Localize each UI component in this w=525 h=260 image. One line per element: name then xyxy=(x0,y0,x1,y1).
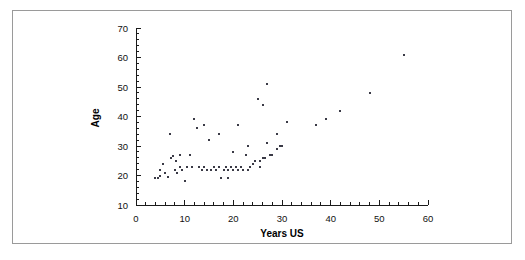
figure-root: 0102030405060 10203040506070 Years US Ag… xyxy=(0,0,525,260)
data-point xyxy=(286,121,288,123)
y-tick-label: 10 xyxy=(117,200,128,211)
data-point xyxy=(230,166,232,168)
x-tick-label: 0 xyxy=(133,213,138,224)
data-point-series xyxy=(154,54,404,183)
y-tick-label: 60 xyxy=(117,52,128,63)
data-point xyxy=(169,133,171,135)
data-point xyxy=(196,127,198,129)
data-point xyxy=(262,157,264,159)
x-axis-tick-labels: 0102030405060 xyxy=(133,213,433,224)
data-point xyxy=(157,177,159,179)
data-point xyxy=(164,172,166,174)
y-axis-tick-labels: 10203040506070 xyxy=(117,23,128,211)
y-tick-label: 40 xyxy=(117,111,128,122)
data-point xyxy=(245,154,247,156)
x-tick-label: 50 xyxy=(374,213,385,224)
data-point xyxy=(235,166,237,168)
data-point xyxy=(257,98,259,100)
data-point xyxy=(369,92,371,94)
x-tick-label: 60 xyxy=(423,213,434,224)
data-point xyxy=(154,177,156,179)
data-point xyxy=(281,145,283,147)
data-point xyxy=(266,83,268,85)
data-point xyxy=(189,154,191,156)
data-point xyxy=(176,172,178,174)
data-point xyxy=(264,157,266,159)
data-point xyxy=(167,176,169,178)
data-point xyxy=(179,154,181,156)
x-tick-label: 30 xyxy=(277,213,288,224)
data-point xyxy=(276,148,278,150)
data-point xyxy=(198,166,200,168)
data-point xyxy=(201,169,203,171)
data-point xyxy=(162,163,164,165)
data-point xyxy=(218,166,220,168)
data-point xyxy=(184,180,186,182)
scatter-plot: 0102030405060 10203040506070 Years US Ag… xyxy=(0,0,525,260)
data-point xyxy=(203,166,205,168)
data-point xyxy=(237,169,239,171)
data-point xyxy=(213,166,215,168)
data-point xyxy=(240,166,242,168)
y-axis-ticks xyxy=(136,28,141,205)
data-point xyxy=(259,166,261,168)
x-tick-label: 40 xyxy=(325,213,336,224)
x-tick-label: 20 xyxy=(228,213,239,224)
data-point xyxy=(220,177,222,179)
data-point xyxy=(159,175,161,177)
data-point xyxy=(266,142,268,144)
data-point xyxy=(159,169,161,171)
data-point xyxy=(325,118,327,120)
data-point xyxy=(232,151,234,153)
x-tick-label: 10 xyxy=(179,213,190,224)
data-point xyxy=(403,54,405,56)
y-axis-title: Age xyxy=(90,108,101,127)
data-point xyxy=(271,154,273,156)
data-point xyxy=(175,160,177,162)
data-point xyxy=(339,110,341,112)
axis-lines xyxy=(136,28,428,205)
data-point xyxy=(227,169,229,171)
y-tick-label: 50 xyxy=(117,82,128,93)
data-point xyxy=(179,166,181,168)
data-point xyxy=(247,145,249,147)
data-point xyxy=(223,169,225,171)
data-point xyxy=(247,169,249,171)
data-point xyxy=(315,124,317,126)
data-point xyxy=(252,163,254,165)
data-point xyxy=(249,166,251,168)
data-point xyxy=(206,169,208,171)
data-point xyxy=(227,177,229,179)
data-point xyxy=(232,169,234,171)
y-tick-label: 30 xyxy=(117,141,128,152)
data-point xyxy=(218,133,220,135)
data-point xyxy=(225,166,227,168)
data-point xyxy=(172,155,174,157)
data-point xyxy=(191,166,193,168)
y-tick-label: 20 xyxy=(117,170,128,181)
data-point xyxy=(242,169,244,171)
data-point xyxy=(262,104,264,106)
x-axis-ticks xyxy=(136,200,428,205)
data-point xyxy=(181,169,183,171)
data-point xyxy=(208,139,210,141)
data-point xyxy=(237,124,239,126)
data-point xyxy=(210,169,212,171)
data-point xyxy=(259,160,261,162)
data-point xyxy=(254,160,256,162)
data-point xyxy=(276,133,278,135)
data-point xyxy=(203,124,205,126)
data-point xyxy=(215,169,217,171)
data-point xyxy=(279,145,281,147)
data-point xyxy=(186,166,188,168)
y-tick-label: 70 xyxy=(117,23,128,34)
data-point xyxy=(269,154,271,156)
data-point xyxy=(174,169,176,171)
data-point xyxy=(193,118,195,120)
x-axis-title: Years US xyxy=(260,228,304,239)
